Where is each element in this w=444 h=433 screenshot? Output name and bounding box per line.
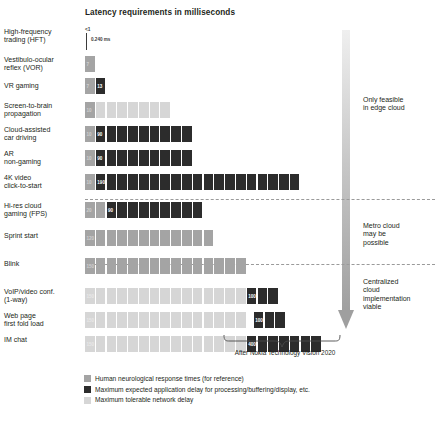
category-label-line: 4K video	[4, 174, 80, 182]
bar-row: 150100	[85, 288, 286, 304]
network-delay-segment	[204, 312, 214, 328]
segment-value-label: 7	[87, 62, 90, 67]
axis-break-icon	[286, 312, 293, 328]
human-response-segment: 10	[85, 102, 95, 118]
category-label-line: gaming (FPS)	[4, 210, 80, 218]
cloud-placement-arrow-icon	[336, 30, 356, 330]
human-response-segment	[204, 258, 214, 274]
application-delay-segment	[265, 312, 275, 328]
page-title: Latency requirements in milliseconds	[85, 8, 235, 17]
application-delay-segment	[107, 174, 117, 190]
application-delay-segment	[128, 126, 138, 142]
category-label-line: car driving	[4, 134, 80, 142]
application-delay-segment	[182, 202, 192, 218]
category-label-line: VR gaming	[4, 82, 80, 90]
application-delay-segment	[258, 174, 268, 190]
human-response-segment	[171, 258, 181, 274]
application-delay-segment: 1900	[96, 174, 106, 190]
network-delay-segment	[225, 288, 235, 304]
category-label-line: Screen-to-brain	[4, 102, 80, 110]
network-delay-segment	[128, 102, 138, 118]
network-delay-segment	[117, 336, 127, 352]
application-delay-segment	[107, 150, 117, 166]
network-delay-segment	[171, 288, 181, 304]
segment-value-label: 90	[97, 156, 102, 161]
segment-value-label: 90	[108, 208, 113, 213]
network-delay-segment	[107, 288, 117, 304]
segment-value-label: 120	[87, 236, 95, 241]
application-delay-segment: 13	[96, 78, 106, 94]
network-delay-segment	[96, 312, 106, 328]
category-label: Blink	[4, 260, 80, 268]
category-label: Hi-res cloudgaming (FPS)	[4, 202, 80, 218]
application-delay-segment	[275, 312, 285, 328]
application-delay-segment	[247, 174, 257, 190]
network-delay-segment	[214, 288, 224, 304]
zone-note-line: possible	[363, 239, 443, 247]
segment-value-label: 20	[87, 208, 92, 213]
chart-legend: Human neurological response times (for r…	[84, 375, 414, 407]
network-delay-segment	[150, 288, 160, 304]
segment-value-label: 10	[87, 132, 92, 137]
network-delay-segment	[139, 312, 149, 328]
category-label: ARnon-gaming	[4, 150, 80, 166]
application-delay-segment	[236, 174, 246, 190]
network-delay-segment: 150	[85, 312, 95, 328]
source-caption: After Nokia Technology Vision 2020	[200, 349, 370, 356]
human-response-segment	[96, 230, 106, 246]
source-brace	[222, 334, 342, 348]
category-label: Vestibulo-ocularreflex (VOR)	[4, 56, 80, 72]
network-delay-segment	[182, 288, 192, 304]
human-response-segment: 10	[85, 174, 95, 190]
category-label-line: propagation	[4, 110, 80, 118]
human-response-segment	[107, 230, 117, 246]
network-delay-segment	[139, 102, 149, 118]
human-response-segment	[139, 258, 149, 274]
network-delay-segment	[236, 312, 246, 328]
category-label-line: Blink	[4, 260, 80, 268]
human-response-segment	[182, 258, 192, 274]
human-response-segment	[128, 230, 138, 246]
human-response-segment: 150	[85, 258, 95, 274]
human-response-segment	[117, 230, 127, 246]
bar-row: 1090	[85, 126, 193, 142]
application-delay-segment	[290, 174, 300, 190]
application-delay-segment	[182, 150, 192, 166]
category-label-line: first fold load	[4, 320, 80, 328]
application-delay-segment	[117, 150, 127, 166]
network-delay-segment	[107, 312, 117, 328]
application-delay-segment	[160, 150, 170, 166]
axis-break-icon	[247, 312, 254, 328]
segment-value-label: 7	[87, 84, 90, 89]
application-delay-segment	[139, 174, 149, 190]
category-label: VoIP/video conf.(1-way)	[4, 288, 80, 304]
category-label-line: Hi-res cloud	[4, 202, 80, 210]
human-response-segment	[193, 258, 203, 274]
network-delay-segment	[160, 288, 170, 304]
category-label-line: Web page	[4, 312, 80, 320]
application-delay-segment: 90	[96, 126, 106, 142]
category-label-line: Sprint start	[4, 232, 80, 240]
human-response-segment	[193, 230, 203, 246]
zone-note-line: cloud	[363, 286, 443, 294]
human-response-segment	[204, 230, 214, 246]
human-response-segment	[160, 230, 170, 246]
application-delay-segment	[171, 126, 181, 142]
network-delay-segment	[225, 312, 235, 328]
bar-plot-area: <10.240 ms771310109010901019002090120150…	[85, 26, 335, 336]
application-delay-segment	[171, 174, 181, 190]
category-label-line: Cloud-assisted	[4, 126, 80, 134]
application-delay-segment	[117, 202, 127, 218]
application-delay-segment	[258, 288, 268, 304]
network-delay-segment	[193, 288, 203, 304]
application-delay-segment	[193, 202, 203, 218]
application-delay-segment	[171, 150, 181, 166]
application-delay-segment	[150, 126, 160, 142]
human-response-segment	[225, 258, 235, 274]
zone-note-metro: Metro cloudmay bepossible	[363, 222, 443, 247]
application-delay-segment	[268, 174, 278, 190]
hft-axis-marker: <10.240 ms	[85, 28, 105, 50]
network-delay-segment	[117, 102, 127, 118]
application-delay-segment	[117, 174, 127, 190]
application-delay-segment	[193, 174, 203, 190]
